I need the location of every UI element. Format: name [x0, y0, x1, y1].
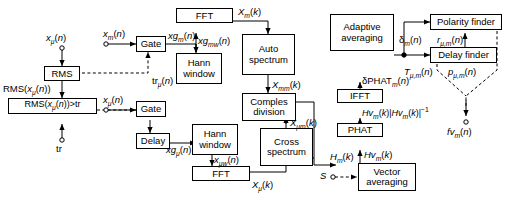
label-tr-mu: trμ(n): [152, 76, 173, 90]
label-fv-m-output: fvm(n): [447, 127, 472, 141]
cross-spectrum-text: Crossspectrum: [267, 137, 306, 158]
block-cross-spectrum[interactable]: Crossspectrum: [260, 128, 313, 166]
block-vector-averaging[interactable]: Vectoraveraging: [358, 163, 416, 191]
label-xg-mu: xgμ(n): [166, 145, 191, 159]
label-X-mu-k: Xμ(k): [252, 180, 273, 194]
label-delta-phat-m: δPHATm(n): [362, 76, 409, 90]
label-T-mu-m: Tμ,m(n): [404, 67, 433, 81]
complex-division-text: Complesdivision: [250, 97, 288, 118]
block-hann-window-top[interactable]: Hannwindow: [176, 53, 222, 84]
block-phat[interactable]: PHAT: [337, 123, 383, 137]
label-x-mu-input: xμ(n): [46, 33, 66, 47]
label-hv-normalized: Hvm(k)|Hvm(k)|−1: [362, 105, 429, 122]
label-X-m-k: Xm(k): [238, 7, 261, 21]
block-delay[interactable]: Delay: [136, 133, 170, 149]
block-gate-m[interactable]: Gate: [136, 36, 166, 52]
block-fft-top[interactable]: FFT: [176, 8, 233, 23]
label-x-m-input: xm(n): [103, 29, 125, 43]
block-rms-threshold[interactable]: RMS(xμ(n))>tr: [8, 98, 97, 114]
block-adaptive-averaging[interactable]: Adaptiveaveraging: [330, 14, 394, 51]
block-delay-finder[interactable]: Delay finder: [430, 47, 497, 63]
block-auto-spectrum[interactable]: Autospectrum: [242, 34, 295, 75]
adaptive-averaging-text: Adaptiveaveraging: [341, 22, 383, 43]
block-diagram: RMS RMS(xμ(n))>tr Gate Gate Delay FFT Ha…: [0, 0, 507, 201]
label-X-mu-m-k: Xμm(k): [290, 118, 317, 132]
auto-spectrum-text: Autospectrum: [249, 44, 288, 65]
block-rms[interactable]: RMS: [44, 66, 80, 81]
label-H-m-k: Hm(k): [330, 152, 354, 166]
block-gate-mu[interactable]: Gate: [136, 101, 166, 117]
block-hann-window-bottom[interactable]: Hannwindow: [192, 124, 238, 155]
label-rms-output: RMS(xμ(n)): [3, 84, 51, 98]
hann-bottom-text: Hannwindow: [199, 129, 231, 150]
block-polarity-finder[interactable]: Polarity finder: [430, 14, 502, 30]
label-p-mu-m: pμ,m(n): [448, 67, 476, 81]
label-S-input: S: [320, 171, 326, 181]
label-x-mu-w: xμw(n): [214, 155, 239, 169]
label-X-mm-k: Xmm(k): [272, 80, 301, 94]
block-ifft[interactable]: IFFT: [337, 89, 383, 103]
label-xg-mw: xgmw(n): [198, 36, 230, 50]
rms-threshold-text: RMS(xμ(n))>tr: [25, 99, 81, 113]
label-r-mu-m: rμ,m(n): [437, 35, 463, 49]
block-complex-division[interactable]: Complesdivision: [242, 93, 296, 121]
label-delta-m: δm(n): [399, 35, 422, 49]
label-xg-m: xgm(n): [168, 31, 195, 45]
label-x-mu-gate-input: xμ(n): [103, 95, 123, 109]
vector-averaging-text: Vectoraveraging: [366, 167, 408, 188]
label-hv-m-k: Hvm(k): [364, 150, 392, 164]
label-tr-input: tr: [56, 144, 62, 154]
hann-top-text: Hannwindow: [183, 58, 215, 79]
